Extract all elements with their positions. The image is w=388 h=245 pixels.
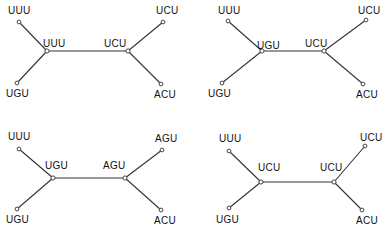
panel-4-internal-right-node [332, 180, 336, 184]
phylogenetic-tree-figure: UUUUGUUCUACUUUUUCUUUUUGUUCUACUUGUUCUUUUU… [0, 0, 388, 245]
panel-1-branch-bottom-left [17, 51, 47, 83]
panel-1-internal-left-label: UUU [43, 38, 66, 49]
panel-2-leaf-bottom-left-label: UGU [208, 88, 231, 99]
panel-3-leaf-top-left-label: UUU [8, 131, 31, 142]
panel-3-internal-right-node [123, 176, 127, 180]
panel-2-leaf-bottom-right-label: ACU [356, 89, 378, 100]
panel-4-internal-left-label: UCU [258, 162, 281, 173]
panel-3-branch-bottom-left [17, 178, 53, 209]
panel-1-internal-right-label: UCU [104, 38, 127, 49]
panel-3-leaf-bottom-right-label: ACU [154, 215, 176, 226]
panel-2-leaf-top-left-node [226, 19, 230, 23]
panel-3-leaf-top-right-node [160, 148, 164, 152]
panel-4-branch-bottom-left [229, 182, 261, 208]
panel-2: UUUUGUUCUACUUGUUCU [194, 0, 388, 122]
panel-1: UUUUGUUCUACUUUUUCU [0, 0, 194, 122]
panel-3-branch-bottom-right [125, 178, 161, 210]
panel-3: UUUUGUAGUACUUGUAGU [0, 122, 194, 244]
panel-2-branch-top-right [324, 20, 366, 51]
panel-3-leaf-bottom-left-label: UGU [6, 214, 29, 225]
panel-2-internal-left-label: UGU [257, 40, 280, 51]
panel-4-branch-bottom-right [334, 182, 362, 210]
panel-4-leaf-top-left-label: UUU [219, 133, 242, 144]
panel-2-leaf-top-left-label: UUU [218, 5, 241, 16]
panel-1-canvas [0, 0, 194, 123]
panel-3-internal-right-label: AGU [103, 160, 126, 171]
panel-2-leaf-top-right-node [364, 18, 368, 22]
panel-2-internal-right-label: UCU [305, 38, 328, 49]
panel-3-internal-left-label: UGU [45, 160, 68, 171]
panel-4-internal-left-node [259, 180, 263, 184]
panel-4-internal-right-label: UCU [320, 162, 343, 173]
panel-1-leaf-top-right-node [161, 20, 165, 24]
panel-2-internal-right-node [322, 49, 326, 53]
panel-3-leaf-top-left-node [17, 147, 21, 151]
panel-1-leaf-top-left-label: UUU [8, 5, 31, 16]
panel-3-leaf-top-right-label: AGU [155, 133, 178, 144]
panel-4-leaf-top-left-node [227, 149, 231, 153]
panel-1-leaf-bottom-right-node [159, 82, 163, 86]
panel-4-leaf-top-right-label: UCU [360, 132, 383, 143]
panel-3-branch-top-right [125, 150, 162, 178]
panel-4-leaf-bottom-right-label: ACU [356, 215, 378, 226]
panel-4-branch-top-left [229, 151, 261, 182]
panel-2-canvas [194, 0, 388, 123]
panel-1-branch-bottom-right [128, 51, 161, 84]
panel-4-leaf-bottom-left-node [227, 206, 231, 210]
panel-2-leaf-bottom-right-node [361, 82, 365, 86]
panel-2-branch-bottom-right [324, 51, 363, 84]
panel-1-branch-top-right [128, 22, 163, 51]
panel-3-internal-left-node [51, 176, 55, 180]
panel-1-internal-left-node [45, 49, 49, 53]
panel-1-leaf-bottom-right-label: ACU [154, 89, 176, 100]
panel-3-leaf-bottom-right-node [159, 208, 163, 212]
panel-1-leaf-bottom-left-node [15, 81, 19, 85]
panel-2-leaf-top-right-label: UCU [358, 5, 381, 16]
panel-1-internal-right-node [126, 49, 130, 53]
panel-3-leaf-bottom-left-node [15, 207, 19, 211]
panel-1-leaf-top-left-node [17, 20, 21, 24]
panel-2-branch-bottom-left [222, 51, 262, 83]
panel-4-leaf-bottom-left-label: UGU [216, 214, 239, 225]
panel-2-leaf-bottom-left-node [220, 81, 224, 85]
panel-4-leaf-top-right-node [363, 144, 367, 148]
panel-1-leaf-top-right-label: UCU [156, 5, 179, 16]
panel-1-leaf-bottom-left-label: UGU [6, 88, 29, 99]
panel-4: UUUUGUUCUACUUCUUCU [194, 122, 388, 244]
panel-4-leaf-bottom-right-node [360, 208, 364, 212]
